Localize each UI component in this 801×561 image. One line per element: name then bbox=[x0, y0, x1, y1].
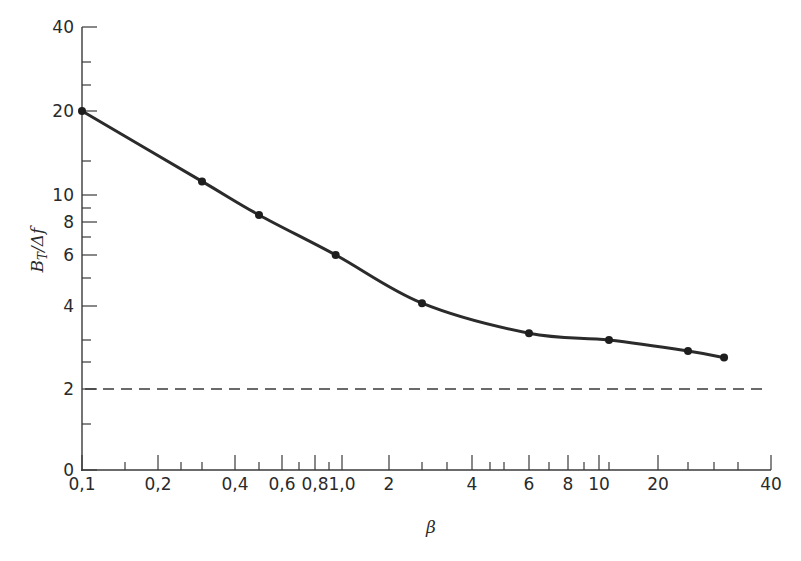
data-point-marker bbox=[332, 251, 340, 259]
x-tick-label: 10 bbox=[588, 474, 610, 494]
x-tick-label: 1,0 bbox=[328, 474, 355, 494]
y-tick-label: 8 bbox=[63, 212, 74, 232]
x-tick-label: 20 bbox=[647, 474, 669, 494]
x-tick-label: 0,8 bbox=[301, 474, 328, 494]
y-tick-label: 40 bbox=[52, 17, 74, 37]
data-point-marker bbox=[525, 329, 533, 337]
x-tick-label: 0,1 bbox=[68, 474, 95, 494]
x-tick-label: 0,6 bbox=[268, 474, 295, 494]
data-point-marker bbox=[684, 347, 692, 355]
x-tick-label: 0,4 bbox=[221, 474, 248, 494]
x-ticks: 0,10,20,40,60,81,02468102040 bbox=[68, 455, 781, 494]
y-axis-title: BT/Δf bbox=[27, 225, 50, 274]
data-point-marker bbox=[198, 177, 206, 185]
data-curve bbox=[82, 111, 724, 358]
x-axis-title: β bbox=[425, 517, 436, 537]
y-tick-label: 6 bbox=[63, 245, 74, 265]
data-point-marker bbox=[255, 211, 263, 219]
svg-text:BT/Δf: BT/Δf bbox=[27, 225, 50, 274]
x-tick-label: 40 bbox=[760, 474, 782, 494]
x-tick-label: 2 bbox=[384, 474, 395, 494]
series bbox=[78, 107, 768, 389]
y-ticks: 02468102040 bbox=[52, 17, 97, 480]
y-tick-label: 2 bbox=[63, 379, 74, 399]
y-tick-label: 10 bbox=[52, 185, 74, 205]
chart-canvas: 02468102040 0,10,20,40,60,81,02468102040… bbox=[0, 0, 801, 561]
y-tick-label: 20 bbox=[52, 101, 74, 121]
y-axis-title-rest: /Δf bbox=[27, 225, 47, 254]
data-point-marker bbox=[720, 354, 728, 362]
x-tick-label: 4 bbox=[467, 474, 478, 494]
x-tick-label: 6 bbox=[524, 474, 535, 494]
data-point-marker bbox=[78, 107, 86, 115]
y-axis-title-main: B bbox=[27, 260, 47, 274]
x-tick-label: 0,2 bbox=[144, 474, 171, 494]
data-point-marker bbox=[418, 299, 426, 307]
y-tick-label: 4 bbox=[63, 296, 74, 316]
x-tick-label: 8 bbox=[563, 474, 574, 494]
data-point-marker bbox=[605, 336, 613, 344]
axes bbox=[81, 27, 771, 471]
